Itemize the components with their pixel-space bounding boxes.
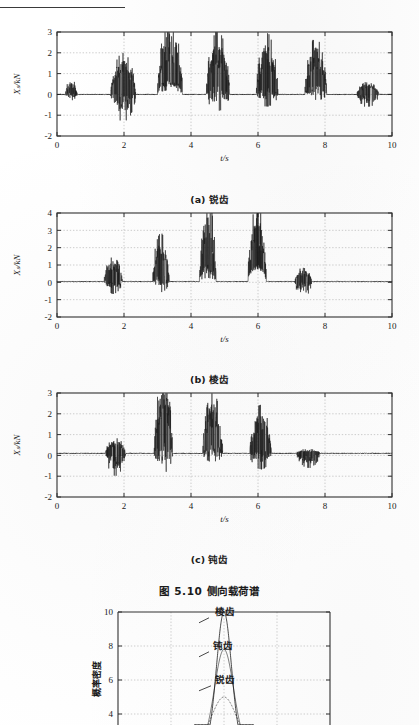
svg-text:6: 6: [256, 321, 261, 331]
svg-text:2: 2: [48, 243, 53, 253]
svg-text:10: 10: [104, 607, 114, 617]
chart-panel-a: -2-101230246810t/sXₛ/kN: [0, 24, 419, 174]
chart-panel-c: -2-101230246810t/sXₛ/kN: [0, 385, 419, 535]
subcaption-a-text: (a) 锐齿: [190, 194, 228, 205]
chart-panel-d: 46810概率密度棱齿钝齿锐齿: [0, 604, 419, 725]
svg-text:4: 4: [48, 208, 53, 218]
svg-text:2: 2: [122, 140, 127, 150]
svg-text:10: 10: [388, 140, 398, 150]
page-header-rule: [0, 7, 125, 8]
chart-d-svg: 46810概率密度棱齿钝齿锐齿: [0, 604, 419, 725]
chart-b-svg: -2-1012340246810t/sXₛ/kN: [0, 205, 419, 355]
svg-text:-1: -1: [45, 471, 53, 481]
svg-text:8: 8: [109, 641, 114, 651]
svg-text:0: 0: [48, 90, 53, 100]
svg-text:t/s: t/s: [220, 153, 229, 163]
svg-text:钝齿: 钝齿: [212, 640, 233, 651]
svg-text:10: 10: [388, 501, 398, 511]
svg-text:-2: -2: [45, 492, 53, 502]
svg-text:0: 0: [55, 140, 60, 150]
svg-text:8: 8: [323, 501, 328, 511]
svg-text:6: 6: [256, 501, 261, 511]
svg-text:Xₛ/kN: Xₛ/kN: [12, 73, 22, 96]
svg-text:0: 0: [55, 321, 60, 331]
chart-panel-b: -2-1012340246810t/sXₛ/kN: [0, 205, 419, 355]
svg-text:概率密度: 概率密度: [91, 660, 102, 697]
svg-text:3: 3: [48, 226, 53, 236]
svg-text:1: 1: [48, 430, 53, 440]
subcaption-c-text: (c) 钝齿: [191, 554, 229, 565]
svg-text:3: 3: [48, 27, 53, 37]
svg-text:t/s: t/s: [220, 334, 229, 344]
svg-text:2: 2: [48, 48, 53, 58]
svg-text:8: 8: [323, 321, 328, 331]
svg-text:8: 8: [323, 140, 328, 150]
svg-text:2: 2: [48, 409, 53, 419]
chart-a-svg: -2-101230246810t/sXₛ/kN: [0, 24, 419, 174]
svg-text:4: 4: [189, 321, 194, 331]
svg-text:4: 4: [109, 709, 114, 719]
svg-text:10: 10: [388, 321, 398, 331]
svg-text:t/s: t/s: [220, 514, 229, 524]
subcaption-c: (c) 钝齿: [0, 552, 419, 566]
svg-text:6: 6: [109, 675, 114, 685]
subcaption-a: (a) 锐齿: [0, 192, 419, 206]
svg-text:1: 1: [48, 69, 53, 79]
svg-text:0: 0: [48, 451, 53, 461]
svg-text:3: 3: [48, 388, 53, 398]
svg-text:Xₛ/kN: Xₛ/kN: [12, 254, 22, 277]
svg-text:1: 1: [48, 260, 53, 270]
chart-c-svg: -2-101230246810t/sXₛ/kN: [0, 385, 419, 535]
svg-text:0: 0: [55, 501, 60, 511]
figure-caption: 图 5.10 侧向载荷谱: [0, 583, 419, 598]
svg-text:2: 2: [122, 321, 127, 331]
subcaption-b-text: (b) 棱齿: [190, 374, 229, 385]
svg-text:-2: -2: [45, 131, 53, 141]
subcaption-b: (b) 棱齿: [0, 372, 419, 386]
svg-text:4: 4: [189, 501, 194, 511]
svg-text:-2: -2: [45, 312, 53, 322]
svg-text:6: 6: [256, 140, 261, 150]
svg-text:棱齿: 棱齿: [215, 606, 235, 617]
svg-text:锐齿: 锐齿: [215, 674, 235, 685]
svg-text:0: 0: [48, 278, 53, 288]
svg-text:-1: -1: [45, 110, 53, 120]
svg-text:2: 2: [122, 501, 127, 511]
figure-caption-text: 图 5.10 侧向载荷谱: [159, 585, 259, 597]
svg-text:Xₛ/kN: Xₛ/kN: [12, 434, 22, 457]
svg-text:4: 4: [189, 140, 194, 150]
svg-text:-1: -1: [45, 295, 53, 305]
